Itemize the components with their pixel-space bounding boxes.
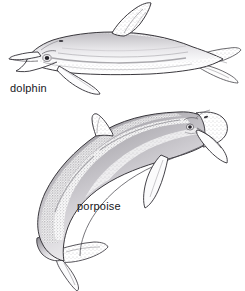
- dolphin-blowhole: [59, 40, 64, 42]
- dolphin-porpoise-comparison-illustration: [0, 0, 245, 291]
- porpoise-label: porpoise: [77, 201, 121, 212]
- dolphin-label: dolphin: [10, 83, 47, 94]
- illustration-canvas: dolphin porpoise: [0, 0, 245, 291]
